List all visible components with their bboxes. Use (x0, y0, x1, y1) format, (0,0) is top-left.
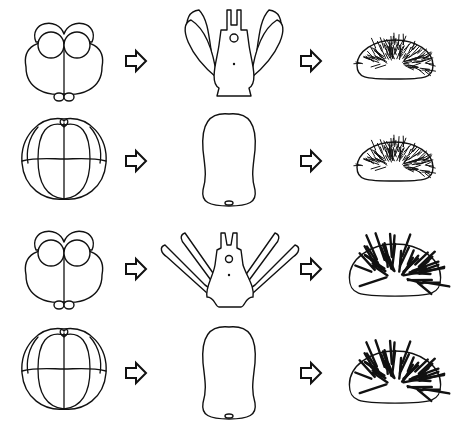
embryo-16cell-no-micromeres (18, 113, 110, 205)
right-arrow-icon (124, 50, 148, 72)
right-arrow-icon (124, 362, 148, 384)
ovoid-larva (199, 323, 259, 423)
figure-row-3 (0, 210, 464, 315)
embryo-16cell-micromeres (18, 12, 110, 104)
right-arrow-icon (299, 50, 323, 72)
pluteus-larva-short-arms (169, 0, 299, 100)
figure-row-1 (0, 0, 464, 105)
right-arrow-icon (299, 362, 323, 384)
right-arrow-icon (299, 150, 323, 172)
juvenile-urchin-fine-spines (345, 28, 445, 88)
embryo-16cell-micromeres (18, 220, 110, 312)
juvenile-urchin-thick-spines (335, 228, 455, 308)
right-arrow-icon (299, 258, 323, 280)
juvenile-urchin-thick-spines (335, 335, 455, 415)
pluteus-larva-long-arms (155, 215, 305, 315)
embryo-16cell-no-micromeres (18, 323, 110, 415)
juvenile-urchin-fine-spines (345, 130, 445, 190)
figure-row-2 (0, 105, 464, 210)
right-arrow-icon (124, 258, 148, 280)
right-arrow-icon (124, 150, 148, 172)
figure-row-4 (0, 315, 464, 420)
ovoid-larva (199, 110, 259, 210)
